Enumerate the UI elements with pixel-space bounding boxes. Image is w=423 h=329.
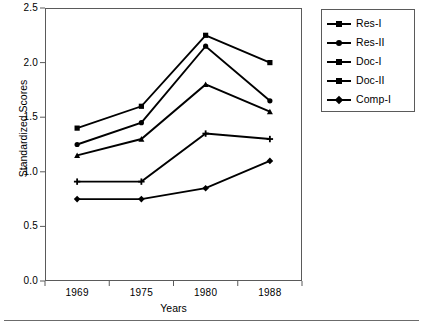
legend-marker-icon	[327, 18, 351, 30]
y-axis-tick-label: 0.0	[4, 276, 38, 286]
legend-item-label: Res-I	[356, 18, 382, 29]
y-axis-tick-label: 0.5	[4, 221, 38, 231]
plot-area	[45, 8, 302, 281]
legend-marker-icon	[327, 94, 351, 106]
legend-item-label: Doc-II	[356, 75, 385, 86]
horizontal-rule	[4, 320, 419, 321]
x-axis-tick-label: 1975	[116, 287, 166, 298]
legend-item-label: Comp-I	[356, 94, 391, 105]
x-axis-tick-label: 1988	[245, 287, 295, 298]
legend-item-label: Res-II	[356, 37, 385, 48]
figure: 0.00.51.01.52.02.5 Standardized Scores 1…	[0, 0, 423, 329]
x-axis-title: Years	[45, 303, 302, 314]
legend-item-doc-ii[interactable]: Doc-II	[322, 71, 414, 90]
figure-caption	[5, 322, 255, 329]
legend-marker-icon	[327, 37, 351, 49]
chart-legend: Res-IRes-IIDoc-IDoc-IIComp-I	[321, 9, 415, 112]
y-axis-tick-label: 2.5	[4, 3, 38, 13]
x-axis-tick-label: 1980	[181, 287, 231, 298]
legend-item-comp-i[interactable]: Comp-I	[322, 90, 414, 109]
legend-marker-icon	[327, 75, 351, 87]
legend-item-res-i[interactable]: Res-I	[322, 14, 414, 33]
legend-item-doc-i[interactable]: Doc-I	[322, 52, 414, 71]
x-axis-tick-labels: 1969197519801988	[45, 287, 302, 301]
x-axis-ticks	[45, 281, 302, 286]
y-axis-title: Standardized Scores	[18, 49, 29, 209]
legend-item-label: Doc-I	[356, 56, 382, 67]
legend-marker-icon	[327, 56, 351, 68]
legend-item-res-ii[interactable]: Res-II	[322, 33, 414, 52]
x-axis-tick-label: 1969	[52, 287, 102, 298]
